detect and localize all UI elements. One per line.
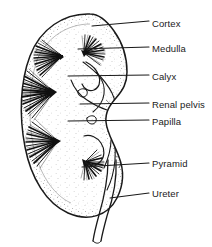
kidney-anatomy-figure: Cortex Medulla Calyx Renal pelvis Papill… — [0, 0, 212, 247]
label-papilla: Papilla — [152, 116, 181, 127]
label-ureter: Ureter — [152, 188, 179, 199]
label-renal-pelvis: Renal pelvis — [152, 99, 205, 110]
label-pyramid: Pyramid — [152, 158, 188, 169]
label-medulla: Medulla — [152, 43, 186, 54]
label-calyx: Calyx — [152, 71, 176, 82]
label-cortex: Cortex — [152, 18, 181, 29]
